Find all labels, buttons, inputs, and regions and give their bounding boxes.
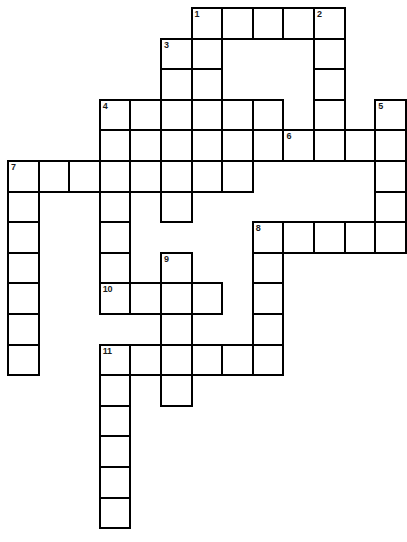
crossword-cell[interactable] [313,38,346,71]
crossword-cell-numbered[interactable]: 8 [252,221,285,254]
crossword-cell[interactable] [38,160,71,193]
crossword-cell[interactable] [68,160,101,193]
clue-number-3: 3 [164,40,169,51]
crossword-cell[interactable] [99,129,132,162]
crossword-cell[interactable] [129,160,162,193]
crossword-cell-numbered[interactable]: 7 [7,160,40,193]
clue-number-9: 9 [164,254,169,265]
crossword-cell[interactable] [252,252,285,285]
crossword-cell[interactable] [7,313,40,346]
crossword-cell[interactable] [344,129,377,162]
crossword-cell[interactable] [313,221,346,254]
crossword-cell[interactable] [160,191,193,224]
crossword-cell[interactable] [191,129,224,162]
crossword-cell[interactable] [221,160,254,193]
crossword-cell[interactable] [191,160,224,193]
crossword-cell[interactable] [221,7,254,40]
crossword-cell[interactable] [282,7,315,40]
crossword-cell-numbered[interactable]: 6 [282,129,315,162]
crossword-cell[interactable] [313,129,346,162]
crossword-cell[interactable] [160,160,193,193]
crossword-cell[interactable] [99,466,132,499]
clue-number-6: 6 [286,131,291,142]
crossword-cell[interactable] [160,374,193,407]
clue-number-10: 10 [103,284,112,295]
crossword-cell[interactable] [191,344,224,377]
crossword-cell[interactable] [99,252,132,285]
crossword-cell[interactable] [160,129,193,162]
crossword-cell[interactable] [7,344,40,377]
crossword-cell[interactable] [221,129,254,162]
crossword-cell-numbered[interactable]: 4 [99,99,132,132]
crossword-cell[interactable] [191,38,224,71]
crossword-cell[interactable] [282,221,315,254]
crossword-cell[interactable] [129,99,162,132]
clue-number-2: 2 [317,9,322,20]
crossword-cell[interactable] [99,405,132,438]
crossword-cell[interactable] [129,129,162,162]
crossword-cell[interactable] [99,221,132,254]
crossword-cell[interactable] [160,282,193,315]
crossword-cell-numbered[interactable]: 3 [160,38,193,71]
crossword-cell[interactable] [7,252,40,285]
crossword-cell-numbered[interactable]: 10 [99,282,132,315]
crossword-cell[interactable] [99,497,132,530]
crossword-cell[interactable] [374,191,407,224]
crossword-cell[interactable] [252,282,285,315]
crossword-cell[interactable] [191,282,224,315]
clue-number-5: 5 [378,101,383,112]
crossword-cell[interactable] [191,99,224,132]
crossword-cell[interactable] [374,160,407,193]
crossword-cell[interactable] [129,344,162,377]
crossword-cell[interactable] [374,221,407,254]
crossword-cell[interactable] [7,221,40,254]
crossword-cell[interactable] [374,129,407,162]
crossword-cell[interactable] [252,313,285,346]
crossword-cell[interactable] [160,344,193,377]
crossword-cell[interactable] [99,191,132,224]
crossword-cell[interactable] [99,374,132,407]
crossword-cell[interactable] [160,313,193,346]
clue-number-1: 1 [195,9,200,20]
crossword-cell-numbered[interactable]: 11 [99,344,132,377]
crossword-cell[interactable] [252,7,285,40]
clue-number-8: 8 [256,223,261,234]
crossword-cell[interactable] [313,68,346,101]
crossword-cell[interactable] [221,344,254,377]
crossword-cell-numbered[interactable]: 5 [374,99,407,132]
crossword-cell-numbered[interactable]: 1 [191,7,224,40]
crossword-cell[interactable] [99,435,132,468]
crossword-cell-numbered[interactable]: 9 [160,252,193,285]
crossword-cell[interactable] [252,344,285,377]
clue-number-4: 4 [103,101,108,112]
crossword-cell[interactable] [191,68,224,101]
crossword-cell[interactable] [344,221,377,254]
crossword-cell[interactable] [252,129,285,162]
crossword-cell[interactable] [252,99,285,132]
crossword-cell[interactable] [313,99,346,132]
crossword-cell[interactable] [7,191,40,224]
crossword-cell[interactable] [160,99,193,132]
crossword-cell[interactable] [129,282,162,315]
crossword-cell-numbered[interactable]: 2 [313,7,346,40]
clue-number-7: 7 [11,162,16,173]
clue-number-11: 11 [103,346,112,357]
crossword-cell[interactable] [7,282,40,315]
crossword-cell[interactable] [99,160,132,193]
crossword-cell[interactable] [160,68,193,101]
crossword-cell[interactable] [221,99,254,132]
